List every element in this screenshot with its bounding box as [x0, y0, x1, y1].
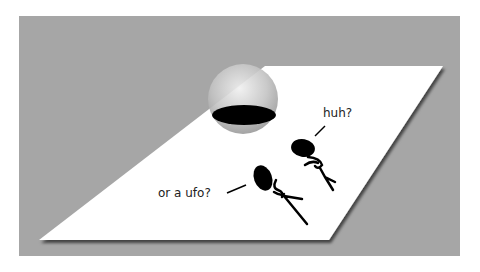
sphere-ufo [208, 64, 278, 134]
speech-text-huh: huh? [323, 106, 352, 120]
illustration-scene: huh? or a ufo? [0, 0, 480, 272]
speech-text-ufo: or a ufo? [158, 186, 211, 200]
sphere-hole [212, 105, 276, 125]
